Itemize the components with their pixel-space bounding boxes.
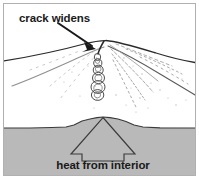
volcano-cross-section-figure: crack widens heat from interior bbox=[0, 0, 199, 179]
diagram-canvas: crack widens heat from interior bbox=[0, 0, 199, 179]
heat-from-interior-label: heat from interior bbox=[56, 159, 150, 171]
crack-widens-label: crack widens bbox=[19, 12, 90, 24]
